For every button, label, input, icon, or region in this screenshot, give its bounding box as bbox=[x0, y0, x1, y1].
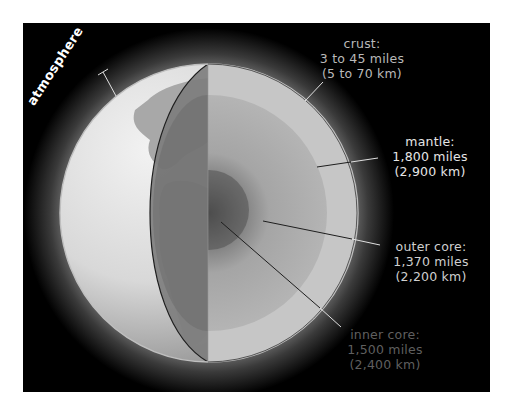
crust-name: crust: bbox=[302, 36, 422, 51]
crust-km: (5 to 70 km) bbox=[302, 66, 422, 81]
mantle-miles: 1,800 miles bbox=[375, 149, 485, 164]
mantle-km: (2,900 km) bbox=[375, 164, 485, 179]
inner-core-label: inner core: 1,500 miles (2,400 km) bbox=[330, 327, 440, 372]
inner-core-km: (2,400 km) bbox=[330, 357, 440, 372]
crust-miles: 3 to 45 miles bbox=[302, 51, 422, 66]
outer-core-name: outer core: bbox=[376, 239, 486, 254]
outer-core-miles: 1,370 miles bbox=[376, 254, 486, 269]
outer-core-label: outer core: 1,370 miles (2,200 km) bbox=[376, 239, 486, 284]
mantle-name: mantle: bbox=[375, 134, 485, 149]
inner-core-name: inner core: bbox=[330, 327, 440, 342]
outer-core-km: (2,200 km) bbox=[376, 269, 486, 284]
mantle-label: mantle: 1,800 miles (2,900 km) bbox=[375, 134, 485, 179]
crust-label: crust: 3 to 45 miles (5 to 70 km) bbox=[302, 36, 422, 81]
inner-core-miles: 1,500 miles bbox=[330, 342, 440, 357]
